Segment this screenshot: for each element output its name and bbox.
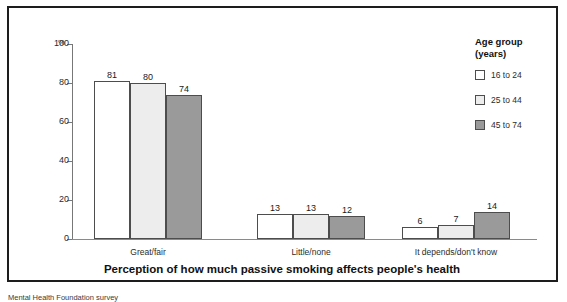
figure-footnote: Mental Health Foundation survey [8,293,559,302]
legend-label: 45 to 74 [491,120,522,130]
bar-group: 131312 [257,44,365,239]
x-axis-baseline [72,239,537,240]
legend-item: 45 to 74 [475,119,555,131]
y-tick-label: 40 [59,154,69,167]
legend: Age group (years) 16 to 2425 to 4445 to … [475,36,555,144]
bar: 13 [293,214,329,239]
bar-value-label: 12 [342,205,352,215]
y-tick-label: 20 [59,193,69,206]
bar-value-label: 6 [417,216,422,226]
bar: 81 [94,81,130,239]
bar: 12 [329,216,365,239]
y-axis-line [72,44,73,239]
legend-swatch [475,70,485,80]
legend-label: 16 to 24 [491,70,522,80]
legend-label: 25 to 44 [491,95,522,105]
legend-swatch [475,95,485,105]
legend-items: 16 to 2425 to 4445 to 74 [475,69,555,131]
bar-value-label: 13 [306,203,316,213]
bar-value-label: 81 [107,70,117,80]
bar-value-label: 74 [179,84,189,94]
plot-area: 020406080100 8180741313126714 Great/fair… [72,44,492,239]
bar-value-label: 13 [270,203,280,213]
chart-frame: % 020406080100 8180741313126714 Great/fa… [7,6,558,282]
legend-swatch [475,120,485,130]
bar: 80 [130,83,166,239]
legend-title-line-2: (years) [475,48,555,60]
category-label: Great/fair [130,247,165,257]
legend-item: 16 to 24 [475,69,555,81]
category-label: Little/none [291,247,330,257]
category-label: It depends/don't know [415,247,497,257]
legend-title: Age group (years) [475,36,555,60]
bar: 14 [474,212,510,239]
y-tick-label: 100 [54,37,69,50]
y-tick-label: 80 [59,76,69,89]
bar-value-label: 14 [487,201,497,211]
x-axis-title: Perception of how much passive smoking a… [72,263,492,275]
y-tick-label: 60 [59,115,69,128]
bar: 6 [402,227,438,239]
bar-group: 818074 [94,44,202,239]
bar: 13 [257,214,293,239]
legend-item: 25 to 44 [475,94,555,106]
bar-value-label: 7 [453,214,458,224]
bar-value-label: 80 [143,72,153,82]
legend-title-line-1: Age group [475,36,555,48]
bar: 7 [438,225,474,239]
bar: 74 [166,95,202,239]
y-tick-label: 0 [64,232,69,245]
